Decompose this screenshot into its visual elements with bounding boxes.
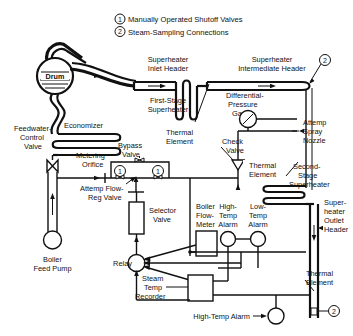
high-temp-alarm-bottom-arrow [261,314,267,319]
boiler-flow-meter-label-2: Flow- [196,211,215,220]
steam-temp-recorder-assembly: Steam Temp Recorder [135,268,310,301]
thermal-element-2-assembly: Thermal Element [243,160,298,180]
high-temp-alarm-bottom [268,308,284,324]
metering-orifice-label-2: Orifice [82,160,103,169]
selector-valve-assembly: Selector Valve [129,192,177,255]
inlet-header-flow-arrow [160,84,166,89]
thermal-element-2-label-1: Thermal [249,161,276,170]
superheater-outlet-header-label-4: Header [324,225,349,234]
boiler-flow-meter-label-1: Boiler [196,202,215,211]
attemperator-water-supply: Metering Orifice Bypass Valve 1 1 Attemp… [57,141,238,202]
attemp-spray-nozzle-label-1: Attemp [303,118,326,127]
thermal-element-1-label-1: Thermal [166,128,193,137]
thermal-element-2-label-2: Element [249,170,276,179]
superheater-inlet-header-assembly: Superheater Inlet Header First-Stage Sup… [134,55,189,114]
high-temp-alarm-label-3: Alarm [218,220,237,229]
outlet-header-flow-arrow [312,235,317,241]
boiler-flow-meter-label-3: Meter [196,220,215,229]
feedwater-flow-arrow [50,193,55,199]
high-temp-alarm-assembly: High- Temp Alarm [218,202,241,268]
steam-temp-recorder-label-1: Steam [142,274,163,283]
boiler-feed-pump-label-1: Boiler [43,255,62,264]
feedwater-control-valve-label-1: Feedwater- [14,124,52,133]
steam-temp-recorder-label-2: Temp [144,283,162,292]
boiler-flow-meter-assembly: Boiler Flow- Meter [188,178,217,256]
legend: 1 Manually Operated Shutoff Valves 2 Ste… [115,14,243,37]
thermal-element-3-label-1: Thermal [306,269,333,278]
legend-marker-2-label: 2 [118,28,122,35]
high-temp-alarm-label-1: High- [219,202,237,211]
check-valve-symbol [232,160,244,170]
attemp-flow-reg-valve-label-2: Reg Valve [88,193,122,202]
legend-marker-1-label: 1 [118,16,122,23]
feedwater-control-valve-label-3: Valve [24,142,42,151]
thermal-element-1-assembly: Thermal Element [166,84,209,146]
selector-valve [129,202,144,234]
bypass-valve-label-2: Valve [122,150,140,159]
sample-marker-2-bottom-label: 2 [332,308,336,315]
diagram-canvas: 1 Manually Operated Shutoff Valves 2 Ste… [0,0,353,336]
feedwater-control-valve-symbol [47,160,58,172]
superheater-outlet-header-label-3: Outlet [324,216,344,225]
metering-orifice-label-1: Metering [76,151,105,160]
high-temp-alarm-bottom-label: High-Temp Alarm [193,312,250,321]
differential-pressure-gage-label-1: Differential- [226,91,264,100]
boiler-feed-pump [44,231,62,249]
intermediate-header-flow-arrow [270,84,276,89]
drum-label: Drum [46,72,65,81]
check-valve-label-1: Check [222,137,243,146]
selector-valve-label-2: Valve [153,215,171,224]
legend-text-1: Manually Operated Shutoff Valves [128,15,243,24]
legend-text-2: Steam-Sampling Connections [128,28,229,37]
superheater-outlet-header-assembly: Super- heater Outlet Header [306,198,349,318]
second-stage-superheater-label-1: Second- [293,162,321,171]
differential-pressure-gage-assembly: Differential- Pressure Gage [226,91,264,131]
valve-marker-1a-label: 1 [118,168,122,175]
check-valve-flow-arrow [236,184,241,190]
attemp-spray-nozzle-pointer [299,129,304,134]
superheater-inlet-header-label-2: Inlet Header [148,64,189,73]
low-temp-alarm-label-2: Temp [249,211,267,220]
selector-valve-label-1: Selector [149,206,177,215]
economizer-assembly: Economizer [53,121,121,155]
steam-sampling-connection-top: 2 [309,55,331,85]
low-temp-alarm-label-1: Low- [250,202,267,211]
selector-valve-in-arrow [134,236,139,242]
steam-temp-recorder [188,275,213,301]
attemp-spray-nozzle-label-3: Nozzle [303,136,326,145]
economizer-label: Economizer [64,121,104,130]
superheater-intermediate-header-label-1: Superheater [252,55,293,64]
superheater-intermediate-header-assembly: Superheater Intermediate Header [207,55,310,90]
valve-marker-1b-label: 1 [156,168,160,175]
superheater-inlet-header-label-1: Superheater [148,55,189,64]
bypass-valve-label-1: Bypass [118,141,143,150]
sample-marker-2-top-label: 2 [323,57,327,64]
high-temp-alarm [221,232,236,247]
attemp-flow-reg-valve-label-1: Attemp Flow- [80,184,124,193]
first-stage-superheater-label-1: First-Stage [150,96,186,105]
boiler-control-schematic: 1 Manually Operated Shutoff Valves 2 Ste… [0,0,353,336]
steam-sampling-connection-bottom: 2 [311,306,340,317]
check-valve-assembly: Check Valve [221,137,244,190]
low-temp-alarm [251,232,266,247]
sample-marker-2-top-arrowhead [309,79,315,85]
boiler-feed-pump-label-2: Feed Pump [33,264,71,273]
superheater-outlet-header-label-1: Super- [324,198,347,207]
check-valve-label-2: Valve [226,146,244,155]
differential-pressure-gage-label-2: Pressure [228,100,258,109]
sample-tap-bottom [311,308,317,315]
feedwater-train: Feedwater- Control Valve Boiler Feed Pum… [14,124,72,273]
relay-label: Relay [113,259,132,268]
superheater-intermediate-header-label-2: Intermediate Header [238,64,306,73]
relay-assembly: Relay [113,245,241,300]
intermediate-header-cap-right [302,82,310,90]
low-temp-alarm-label-3: Alarm [248,220,267,229]
feedwater-control-valve-label-2: Control [20,133,44,142]
second-stage-superheater-label-2: Stage [298,171,317,180]
second-stage-superheater-label-3: Superheater [289,180,330,189]
attemp-spray-nozzle-label-2: Spray [303,127,323,136]
high-temp-alarm-label-2: Temp [219,211,237,220]
thermal-element-1-label-2: Element [166,137,193,146]
superheater-outlet-header-label-2: heater [324,207,345,216]
attemp-water-flow-arrow [94,176,100,181]
